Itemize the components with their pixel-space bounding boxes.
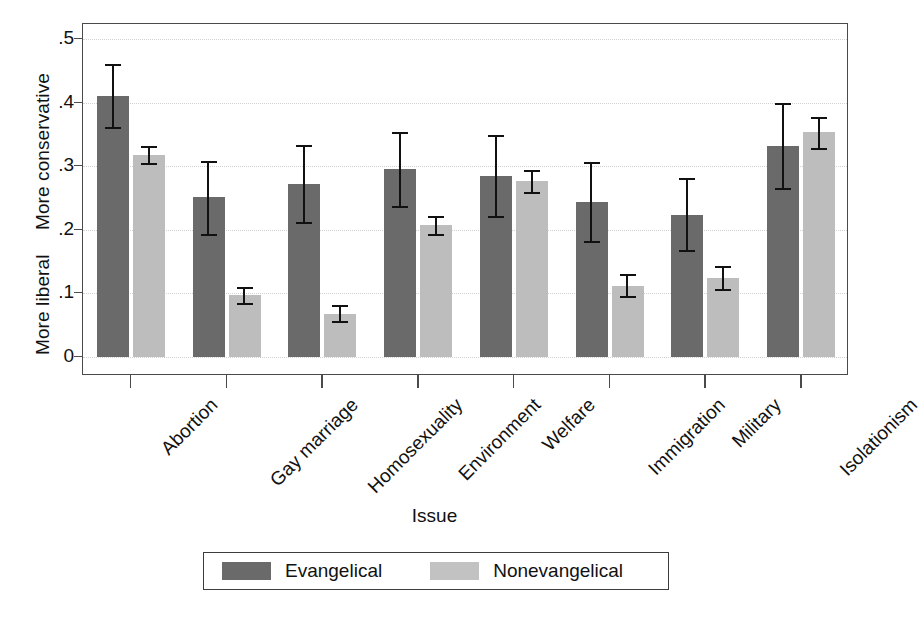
y-axis-tick-mark	[74, 102, 83, 103]
legend-swatch-nonevangelical	[430, 562, 479, 580]
legend-swatch-evangelical	[222, 562, 271, 580]
x-axis-tick-label: Homosexuality	[364, 394, 468, 498]
x-axis-tick-label: Immigration	[644, 394, 730, 480]
legend: Evangelical Nonevangelical	[203, 552, 669, 590]
x-axis-tick-label: Gay marriage	[265, 394, 362, 491]
y-axis-tick-mark	[74, 356, 83, 357]
x-axis-tick-label: Abortion	[157, 394, 223, 460]
x-axis-tick-label: Military	[728, 394, 786, 452]
y-axis-tick-mark	[74, 165, 83, 166]
x-axis-tick-label: Welfare	[538, 394, 600, 456]
legend-label-evangelical: Evangelical	[285, 560, 382, 582]
y-axis-tick-mark	[74, 38, 83, 39]
legend-entry-nonevangelical[interactable]: Nonevangelical	[430, 553, 623, 589]
y-axis-tick-mark	[74, 229, 83, 230]
x-axis-title: Issue	[0, 505, 869, 527]
y-axis-tick-mark	[74, 292, 83, 293]
legend-entry-evangelical[interactable]: Evangelical	[222, 553, 382, 589]
x-axis-tick-label: Isolationism	[836, 394, 922, 480]
x-axis-tick-label: Environment	[454, 394, 545, 485]
legend-label-nonevangelical: Nonevangelical	[493, 560, 623, 582]
